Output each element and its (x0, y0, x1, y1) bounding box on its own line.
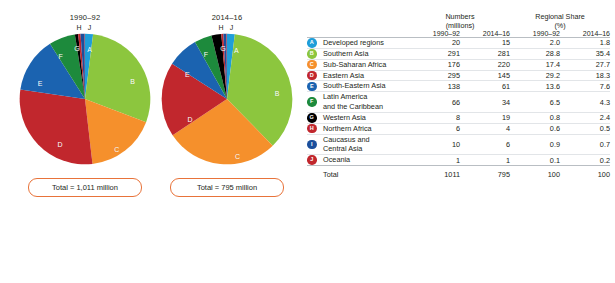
row-value-share-1990: 29.2 (510, 70, 560, 81)
row-region-label: Northern Africa (323, 123, 410, 134)
legend-badge-I: I (307, 140, 317, 150)
table-row[interactable]: ADeveloped regions20152.01.8 (307, 38, 610, 49)
legend-badge-C: C (307, 60, 317, 70)
pie-slice-D (20, 90, 93, 165)
table-row[interactable]: ESouth-Eastern Asia1386113.67.6 (307, 81, 610, 92)
legend-badge-E: E (307, 82, 317, 92)
row-value-numbers-2014: 61 (460, 81, 510, 92)
row-value-share-2014: 0.5 (560, 123, 610, 134)
row-badge-cell: B (307, 48, 323, 59)
row-region-label: Latin America and the Caribbean (323, 92, 410, 113)
row-badge-cell: F (307, 92, 323, 113)
row-region-label: Oceania (323, 155, 410, 166)
total-value-share-2014: 100 (560, 166, 610, 183)
table-row[interactable]: JOceania110.10.2 (307, 155, 610, 166)
group-header-share-line1: Regional Share (510, 12, 610, 21)
row-badge-cell: H (307, 123, 323, 134)
pie-1-total-pill: Total = 1,011 million (28, 178, 142, 197)
row-value-share-2014: 7.6 (560, 81, 610, 92)
regional-data-table: Numbers (millions) Regional Share (%) 19… (307, 12, 610, 182)
row-region-label: Eastern Asia (323, 70, 410, 81)
row-value-numbers-1990: 6 (410, 123, 460, 134)
total-badge-spacer (307, 166, 323, 183)
pie-2-svg (161, 33, 293, 165)
row-value-share-1990: 0.1 (510, 155, 560, 166)
pie-2-wrap: ABCDEFGHJ (161, 33, 293, 165)
pie-chart-1990-92: 1990–92 H J ABCDEFGHJ Total = 1,011 mill… (10, 0, 160, 197)
row-value-numbers-2014: 4 (460, 123, 510, 134)
row-value-share-2014: 4.3 (560, 92, 610, 113)
group-header-share-line2: (%) (510, 21, 610, 30)
pie-1-outer-labels: H J (10, 24, 160, 31)
table-row[interactable]: ICaucasus and Central Asia1060.90.7 (307, 134, 610, 155)
legend-badge-F: F (307, 97, 317, 107)
row-badge-cell: A (307, 38, 323, 49)
pie-2-title: 2014–16 (152, 14, 302, 22)
row-value-numbers-1990: 10 (410, 134, 460, 155)
legend-badge-H: H (307, 124, 317, 134)
table-row[interactable]: GWestern Asia8190.82.4 (307, 112, 610, 123)
data-table-panel: Numbers (millions) Regional Share (%) 19… (305, 0, 615, 283)
row-badge-cell: J (307, 155, 323, 166)
row-value-numbers-2014: 19 (460, 112, 510, 123)
table-total-row: Total1011795100100 (307, 166, 610, 183)
pie-2-outer-labels: H J (152, 24, 302, 31)
legend-badge-A: A (307, 38, 317, 48)
pie-1-title: 1990–92 (10, 14, 160, 22)
row-badge-cell: I (307, 134, 323, 155)
row-value-share-1990: 0.6 (510, 123, 560, 134)
total-value-numbers-2014: 795 (460, 166, 510, 183)
figure-root: 1990–92 H J ABCDEFGHJ Total = 1,011 mill… (0, 0, 615, 283)
table-row[interactable]: HNorthern Africa640.60.5 (307, 123, 610, 134)
table-body: ADeveloped regions20152.01.8BSouthern As… (307, 38, 610, 183)
row-value-share-2014: 35.4 (560, 48, 610, 59)
row-value-numbers-2014: 6 (460, 134, 510, 155)
total-value-numbers-1990: 1011 (410, 166, 460, 183)
legend-badge-J: J (307, 155, 317, 165)
table-row[interactable]: CSub-Saharan Africa17622017.427.7 (307, 59, 610, 70)
pie-charts-panel: 1990–92 H J ABCDEFGHJ Total = 1,011 mill… (0, 0, 305, 283)
pie-1-wrap: ABCDEFGHJ (19, 33, 151, 165)
row-value-numbers-2014: 15 (460, 38, 510, 49)
sub-header-share-2014: 2014–16 (560, 30, 610, 38)
row-value-share-2014: 2.4 (560, 112, 610, 123)
row-value-numbers-2014: 145 (460, 70, 510, 81)
row-value-share-1990: 13.6 (510, 81, 560, 92)
row-value-share-1990: 17.4 (510, 59, 560, 70)
row-value-numbers-1990: 295 (410, 70, 460, 81)
row-value-numbers-1990: 66 (410, 92, 460, 113)
pie-2-total-pill: Total = 795 million (170, 178, 284, 197)
row-region-label: South-Eastern Asia (323, 81, 410, 92)
row-value-share-1990: 2.0 (510, 38, 560, 49)
row-value-share-1990: 0.9 (510, 134, 560, 155)
pie-1-svg (19, 33, 151, 165)
legend-badge-B: B (307, 49, 317, 59)
row-region-label: Western Asia (323, 112, 410, 123)
table-row[interactable]: DEastern Asia29514529.218.3 (307, 70, 610, 81)
table-row[interactable]: FLatin America and the Caribbean66346.54… (307, 92, 610, 113)
row-value-numbers-2014: 1 (460, 155, 510, 166)
row-region-label: Developed regions (323, 38, 410, 49)
group-header-numbers: Numbers (millions) (410, 12, 510, 30)
row-value-numbers-1990: 176 (410, 59, 460, 70)
row-value-share-2014: 1.8 (560, 38, 610, 49)
row-value-share-1990: 0.8 (510, 112, 560, 123)
row-value-numbers-1990: 8 (410, 112, 460, 123)
row-badge-cell: C (307, 59, 323, 70)
legend-badge-D: D (307, 71, 317, 81)
row-value-numbers-1990: 20 (410, 38, 460, 49)
total-value-share-1990: 100 (510, 166, 560, 183)
row-badge-cell: E (307, 81, 323, 92)
group-header-numbers-line1: Numbers (410, 12, 510, 21)
pie-chart-2014-16: 2014–16 H J ABCDEFGHJ Total = 795 millio… (152, 0, 302, 197)
row-value-share-2014: 27.7 (560, 59, 610, 70)
row-value-numbers-1990: 1 (410, 155, 460, 166)
row-region-label: Caucasus and Central Asia (323, 134, 410, 155)
group-header-numbers-line2: (millions) (410, 21, 510, 30)
table-row[interactable]: BSouthern Asia29128128.835.4 (307, 48, 610, 59)
row-value-numbers-2014: 220 (460, 59, 510, 70)
legend-badge-G: G (307, 113, 317, 123)
row-value-share-2014: 18.3 (560, 70, 610, 81)
sub-header-numbers-1990: 1990–92 (410, 30, 460, 38)
row-region-label: Southern Asia (323, 48, 410, 59)
